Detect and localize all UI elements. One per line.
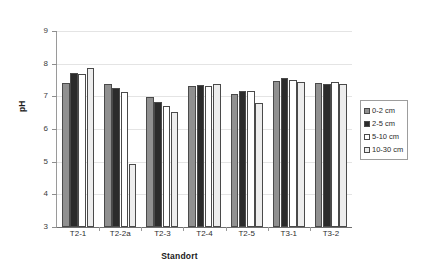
bar-group	[57, 31, 99, 227]
y-tick-label: 5	[28, 158, 48, 166]
bar	[205, 86, 213, 227]
y-tick-label: 4	[28, 190, 48, 198]
legend-item[interactable]: 2-5 cm	[364, 117, 403, 130]
bar-group	[183, 31, 225, 227]
bar	[231, 94, 239, 227]
bar	[70, 73, 78, 227]
x-tick-mark	[226, 227, 227, 231]
plot-area	[57, 31, 352, 227]
bar	[281, 78, 289, 227]
bar	[146, 97, 154, 227]
bar	[323, 84, 331, 227]
y-tick-mark	[52, 227, 57, 228]
bar	[273, 81, 281, 227]
bar	[104, 84, 112, 227]
bar	[129, 164, 137, 227]
bar-group	[141, 31, 183, 227]
bar	[331, 82, 339, 227]
bar	[289, 80, 297, 227]
x-tick-mark	[183, 227, 184, 231]
bar	[315, 83, 323, 227]
bar	[188, 86, 196, 227]
legend-swatch-icon	[364, 108, 370, 114]
legend-label: 0-2 cm	[372, 107, 395, 115]
legend: 0-2 cm2-5 cm5-10 cm10-30 cm	[360, 100, 408, 160]
legend-label: 5-10 cm	[372, 133, 399, 141]
x-tick-label: T3-1	[268, 230, 310, 238]
bar-group	[310, 31, 352, 227]
bar	[121, 92, 129, 227]
ph-bar-chart: 9876543 pH T2-1T2-2aT2-3T2-4T2-5T3-1T3-2…	[0, 0, 429, 279]
x-axis-title: Standort	[0, 251, 429, 261]
bar	[112, 88, 120, 227]
legend-item[interactable]: 10-30 cm	[364, 143, 403, 156]
y-axis-title: pH	[17, 101, 27, 112]
y-tick-label: 8	[28, 60, 48, 68]
bar	[247, 91, 255, 227]
y-tick-label: 7	[28, 92, 48, 100]
bar	[87, 68, 95, 227]
x-tick-mark	[268, 227, 269, 231]
x-tick-mark	[310, 227, 311, 231]
y-tick-label: 3	[28, 223, 48, 231]
x-axis-line	[56, 227, 352, 228]
legend-label: 10-30 cm	[372, 146, 403, 154]
x-tick-label: T2-2a	[99, 230, 141, 238]
bar	[62, 83, 70, 227]
legend-swatch-icon	[364, 121, 370, 127]
legend-swatch-icon	[364, 134, 370, 140]
legend-label: 2-5 cm	[372, 120, 395, 128]
x-tick-label: T2-3	[141, 230, 183, 238]
bar	[213, 84, 221, 227]
y-tick-label: 6	[28, 125, 48, 133]
x-tick-label: T3-2	[310, 230, 352, 238]
x-tick-mark	[141, 227, 142, 231]
bar	[154, 102, 162, 227]
legend-item[interactable]: 5-10 cm	[364, 130, 403, 143]
bar-group	[226, 31, 268, 227]
bar	[171, 112, 179, 227]
x-tick-label: T2-4	[183, 230, 225, 238]
x-axis-title-text: Standort	[161, 251, 198, 261]
y-tick-label: 9	[28, 27, 48, 35]
x-tick-mark	[99, 227, 100, 231]
x-tick-label: T2-1	[57, 230, 99, 238]
legend-item[interactable]: 0-2 cm	[364, 104, 403, 117]
bar	[197, 85, 205, 227]
bar-group	[99, 31, 141, 227]
x-tick-label: T2-5	[226, 230, 268, 238]
bar	[163, 106, 171, 227]
legend-swatch-icon	[364, 147, 370, 153]
bar	[339, 84, 347, 227]
bar	[239, 91, 247, 227]
bar	[78, 74, 86, 227]
bar	[297, 82, 305, 227]
bar	[255, 103, 263, 227]
bar-group	[268, 31, 310, 227]
